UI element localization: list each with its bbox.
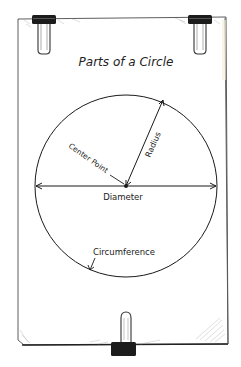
diagram-title: Parts of a Circle [79,55,174,69]
label-circumference: Circumference [93,247,155,257]
parts-of-circle-drawing: Parts of a Circle Center Point Radius Di… [0,0,241,367]
label-diameter: Diameter [103,192,143,202]
